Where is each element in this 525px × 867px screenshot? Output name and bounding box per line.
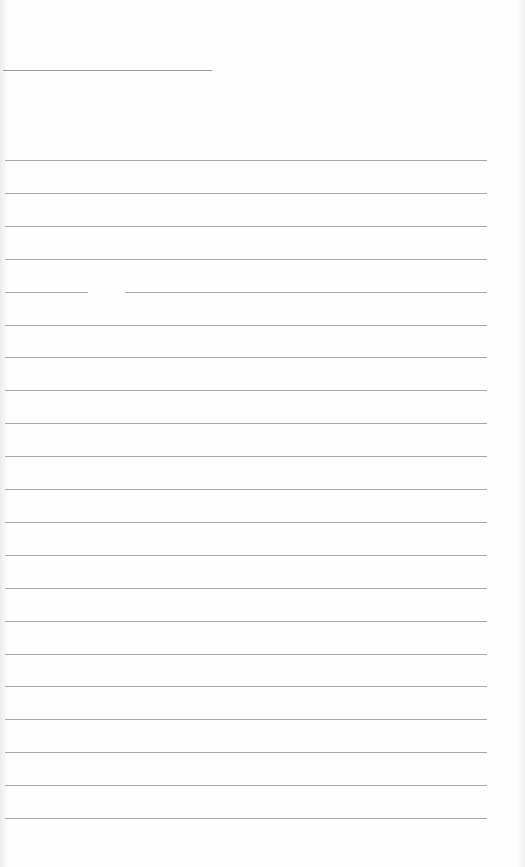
ruled-line xyxy=(5,522,487,523)
ruled-line xyxy=(5,456,487,457)
ruled-line xyxy=(5,160,487,161)
ruled-line xyxy=(5,588,487,589)
ruled-line xyxy=(5,654,487,655)
ruled-line xyxy=(5,555,487,556)
ruled-line xyxy=(5,785,487,786)
ruled-line xyxy=(5,621,487,622)
page-edge-shadow-left xyxy=(0,0,8,867)
ruled-line xyxy=(5,357,487,358)
ruled-line xyxy=(5,719,487,720)
ruled-line xyxy=(5,292,487,293)
ruled-line xyxy=(5,423,487,424)
ruled-line xyxy=(5,818,487,819)
rule-gap xyxy=(88,291,125,294)
ruled-line xyxy=(5,226,487,227)
ruled-line xyxy=(5,752,487,753)
ruled-line xyxy=(5,193,487,194)
ruled-line xyxy=(5,390,487,391)
ruled-line xyxy=(5,489,487,490)
page-edge-shadow-right xyxy=(517,0,525,867)
ruled-line xyxy=(5,686,487,687)
ruled-line xyxy=(5,325,487,326)
ruled-line xyxy=(5,259,487,260)
ruled-page xyxy=(0,0,525,867)
header-underline xyxy=(3,70,212,71)
